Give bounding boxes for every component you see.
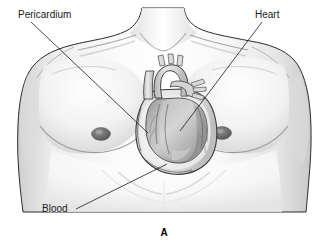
nipple-right-highlight [217, 129, 224, 133]
label-blood: Blood [42, 203, 68, 214]
anatomy-figure: Pericardium Heart Blood A [0, 0, 329, 242]
figure-caption: A [160, 227, 167, 238]
left-common-carotid [168, 54, 174, 64]
label-heart: Heart [255, 9, 280, 20]
pulmonary-branch-mid [193, 87, 206, 92]
figure-svg: Pericardium Heart Blood A [0, 0, 329, 242]
label-pericardium: Pericardium [18, 9, 71, 20]
nipple-left-highlight [96, 130, 103, 134]
superior-vena-cava [144, 71, 154, 99]
nipple-left [92, 128, 111, 141]
left-subclavian [177, 55, 183, 66]
